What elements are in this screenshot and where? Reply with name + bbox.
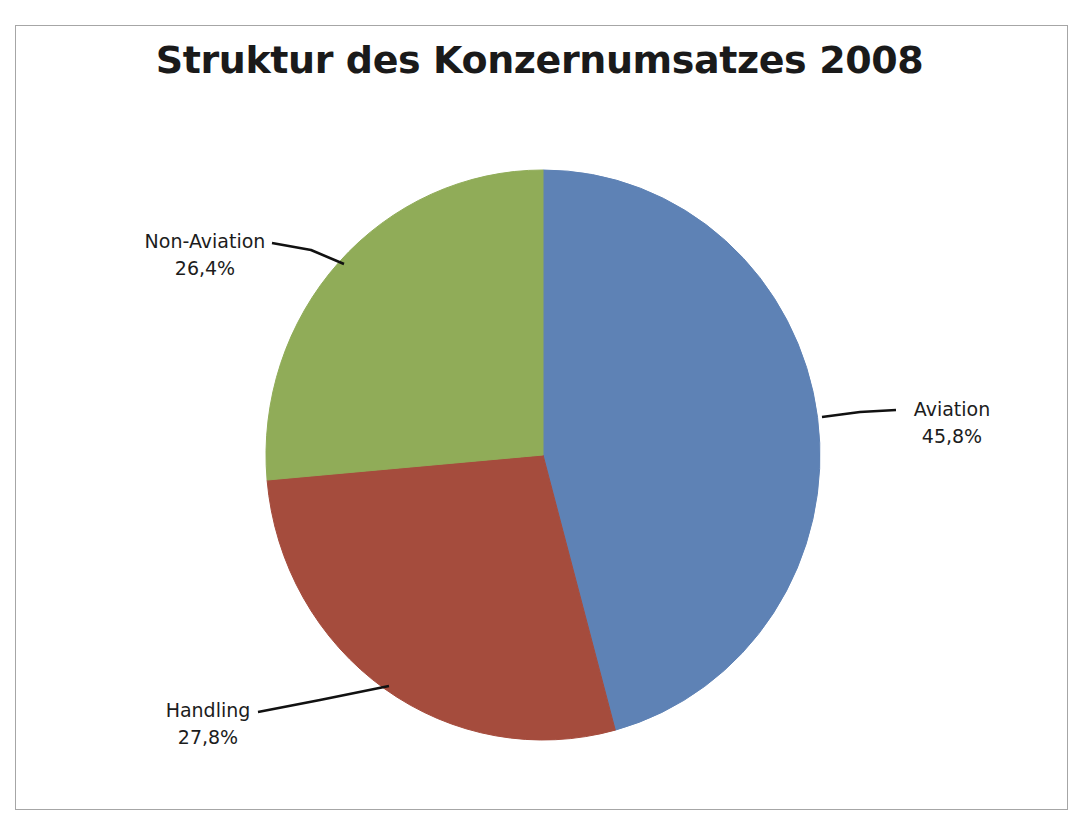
callout-percent-handling: 27,8% [156,724,260,751]
leader-line-handling [258,686,389,712]
callout-handling: Handling 27,8% [156,697,260,751]
leader-line-aviation [822,410,896,417]
callout-percent-non-aviation: 26,4% [139,255,271,282]
callout-aviation: Aviation 45,8% [900,396,1004,450]
callout-percent-aviation: 45,8% [900,423,1004,450]
callout-label-non-aviation: Non-Aviation [139,228,271,255]
chart-page: Struktur des Konzernumsatzes 2008 Non-Av… [0,0,1079,825]
callout-non-aviation: Non-Aviation 26,4% [139,228,271,282]
leader-line-non-aviation [272,243,344,264]
pie-slice-non-aviation[interactable] [266,170,543,480]
callout-label-aviation: Aviation [900,396,1004,423]
callout-label-handling: Handling [156,697,260,724]
